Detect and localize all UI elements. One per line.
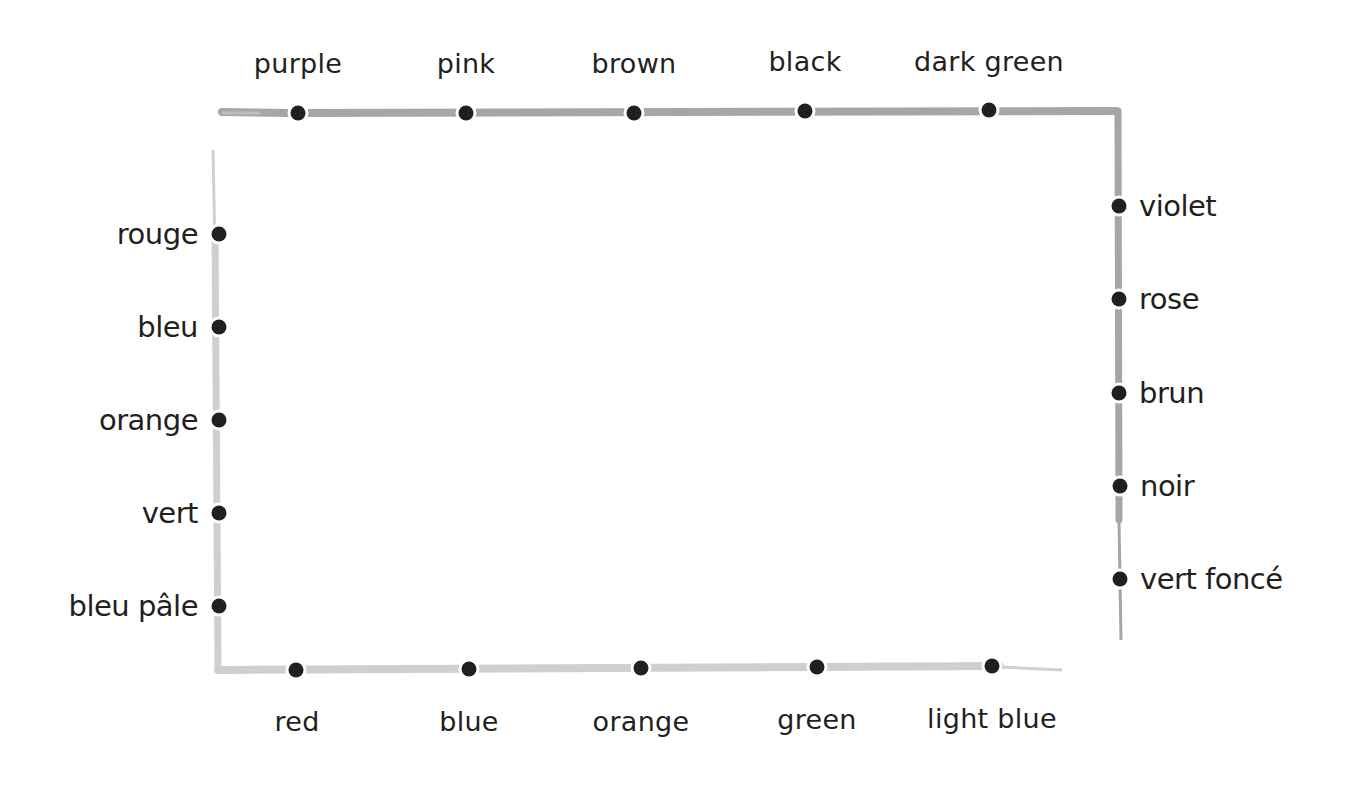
dot-orange-fr[interactable] [212,413,227,428]
dot-bleu-pale[interactable] [212,599,227,614]
word-noir: noir [1140,469,1194,503]
dot-blue[interactable] [462,662,477,677]
frame-bottom-edge [218,666,1000,670]
word-orange-fr: orange [99,403,198,437]
word-brun: brun [1139,376,1204,410]
dot-light-blue[interactable] [985,659,1000,674]
word-violet: violet [1139,189,1216,223]
word-orange-en: orange [593,706,690,737]
word-dark-green: dark green [914,46,1064,77]
dot-rose[interactable] [1112,292,1127,307]
word-green: green [777,704,856,735]
word-bleu-pale: bleu pâle [69,589,198,623]
frame-right-edge [1118,111,1119,520]
word-vert: vert [142,496,198,530]
dot-purple[interactable] [291,106,306,121]
dot-noir[interactable] [1113,479,1128,494]
dot-dark-green[interactable] [982,103,997,118]
dot-brun[interactable] [1112,386,1127,401]
word-bleu: bleu [137,310,198,344]
word-black: black [768,46,841,77]
dot-orange-en[interactable] [634,661,649,676]
word-rouge: rouge [117,217,198,251]
word-blue: blue [439,706,499,737]
dot-red[interactable] [289,663,304,678]
dot-pink[interactable] [459,106,474,121]
dot-brown[interactable] [627,106,642,121]
word-rose: rose [1139,282,1199,316]
dot-rouge[interactable] [212,227,227,242]
word-red: red [274,706,319,737]
word-purple: purple [254,48,342,79]
word-light-blue: light blue [927,703,1057,734]
dot-black[interactable] [798,104,813,119]
dot-vert[interactable] [212,506,227,521]
dot-violet[interactable] [1112,199,1127,214]
dot-vert-fonce[interactable] [1113,572,1128,587]
dot-green[interactable] [810,660,825,675]
word-brown: brown [592,48,677,79]
word-pink: pink [437,48,496,79]
dot-bleu[interactable] [212,320,227,335]
word-vert-fonce: vert foncé [1140,562,1283,596]
